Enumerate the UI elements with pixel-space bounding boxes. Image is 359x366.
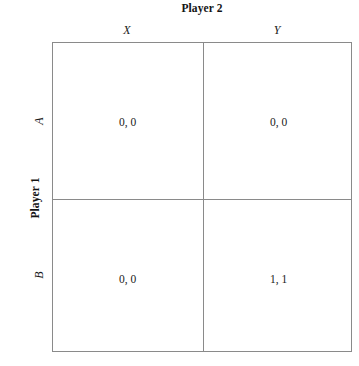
payoff-value: 1, 1 xyxy=(270,272,287,286)
payoff-value: 0, 0 xyxy=(270,115,287,129)
matrix-cell-b-y: 1, 1 xyxy=(204,200,353,355)
matrix-grid: 0, 0 0, 0 0, 0 1, 1 xyxy=(52,42,352,352)
payoff-value: 0, 0 xyxy=(119,115,136,129)
matrix-cell-a-y: 0, 0 xyxy=(204,43,353,198)
figure-caption xyxy=(52,357,352,366)
column-header-y: Y xyxy=(202,23,352,38)
matrix-cell-a-x: 0, 0 xyxy=(53,43,202,198)
matrix-cell-b-x: 0, 0 xyxy=(53,200,202,355)
payoff-matrix-figure: Player 2 X Y Player 1 A B 0, 0 0, 0 0, 0… xyxy=(0,0,359,366)
payoff-value: 0, 0 xyxy=(119,272,136,286)
column-player-title: Player 2 xyxy=(52,1,352,15)
column-header-x: X xyxy=(52,23,202,38)
